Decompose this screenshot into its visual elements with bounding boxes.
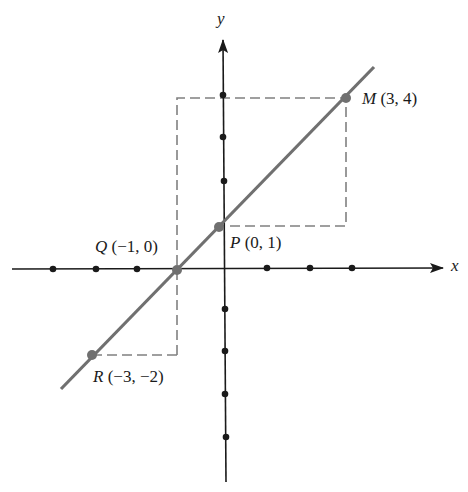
y-axis — [223, 40, 226, 482]
point-Q — [172, 265, 182, 275]
point-P — [214, 222, 224, 232]
x-axis-label: x — [450, 256, 459, 275]
label-P-coords: (0, 1) — [245, 233, 282, 252]
label-P-name: P — [229, 233, 240, 252]
label-M: M (3, 4) — [361, 89, 417, 108]
guide-rect-top — [177, 98, 346, 355]
coordinate-diagram: y x M (3, 4) P (0, 1) Q (−1, 0) R (−3, −… — [0, 0, 468, 492]
label-R: R (−3, −2) — [92, 367, 164, 386]
point-R — [87, 350, 97, 360]
label-Q-coords: (−1, 0) — [112, 237, 158, 256]
label-R-coords: (−3, −2) — [108, 367, 164, 386]
label-P: P (0, 1) — [229, 233, 281, 252]
label-Q-name: Q — [95, 237, 107, 256]
point-M — [341, 93, 351, 103]
label-M-coords: (3, 4) — [380, 89, 417, 108]
x-axis — [12, 268, 443, 269]
label-R-name: R — [92, 367, 104, 386]
label-M-name: M — [361, 89, 377, 108]
y-axis-label: y — [215, 9, 225, 28]
label-Q: Q (−1, 0) — [95, 237, 158, 256]
diagram-canvas: y x M (3, 4) P (0, 1) Q (−1, 0) R (−3, −… — [0, 0, 468, 492]
